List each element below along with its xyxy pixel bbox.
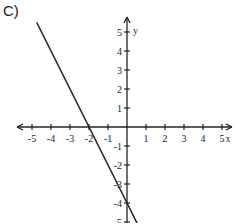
x-tick-label: 3: [182, 133, 187, 144]
x-tick-label: 5: [220, 133, 225, 144]
x-tick-label: -2: [85, 133, 93, 144]
x-tick-label: -3: [66, 133, 74, 144]
x-axis-label: x: [226, 133, 231, 144]
graph-line: [37, 23, 139, 224]
y-tick-label: -1: [114, 141, 122, 152]
y-tick-label: 5: [117, 27, 122, 38]
x-tick-label: 2: [163, 133, 168, 144]
y-tick-label: -2: [114, 160, 122, 171]
y-tick-label: 2: [117, 84, 122, 95]
x-tick-label: -5: [28, 133, 36, 144]
y-tick-label: -5: [114, 217, 122, 223]
y-tick-label: 3: [117, 65, 122, 76]
x-tick-label: 1: [144, 133, 149, 144]
x-tick-label: -4: [47, 133, 55, 144]
coordinate-plane: -5-4-3-2-112345-5-4-3-2-112345xy: [0, 0, 236, 223]
x-tick-label: 4: [201, 133, 206, 144]
y-axis-label: y: [133, 25, 138, 36]
x-tick-label: -1: [104, 133, 112, 144]
y-tick-label: -4: [114, 198, 122, 209]
y-tick-label: 1: [117, 103, 122, 114]
y-tick-label: 4: [117, 46, 122, 57]
